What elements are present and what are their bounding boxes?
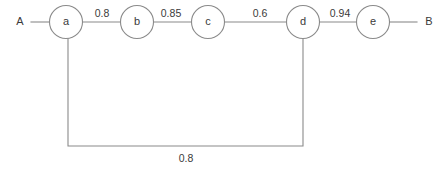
edge-weight-d-e: 0.94 (330, 7, 351, 19)
edge-weight-a-b: 0.8 (95, 7, 110, 19)
node-b-label: b (134, 15, 140, 27)
terminal-label-A: A (16, 15, 24, 27)
diagram-canvas: a b c d e A B 0.8 0.85 0.6 0.94 0.8 (0, 0, 445, 171)
terminal-label-B: B (425, 15, 432, 27)
node-d-label: d (300, 15, 306, 27)
edge-weight-c-d: 0.6 (253, 7, 268, 19)
edge-weight-a-d-bottom: 0.8 (179, 152, 194, 164)
node-c-label: c (205, 15, 211, 27)
graph-svg: a b c d e A B 0.8 0.85 0.6 0.94 0.8 (0, 0, 445, 171)
node-a-label: a (63, 15, 70, 27)
edge-a-d-bottom-line (68, 39, 303, 147)
node-e-label: e (370, 15, 376, 27)
edge-weight-b-c: 0.85 (161, 7, 182, 19)
